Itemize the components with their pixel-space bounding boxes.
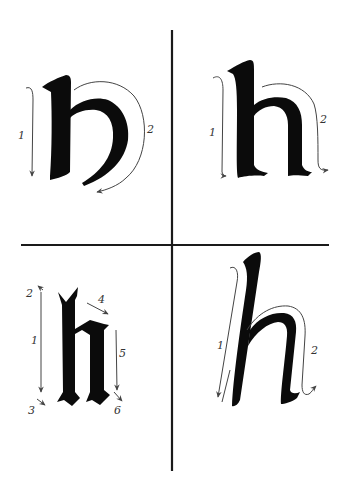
panel-bottom-left: 2 1 3 4 5 6 (25, 286, 126, 417)
stroke-label: 1 (217, 339, 224, 352)
letter-h-foundational-arch (254, 97, 312, 176)
stroke-label: 1 (18, 129, 25, 142)
letter-h-uncial-stem (42, 75, 71, 180)
panel-top-left: 1 2 (18, 75, 154, 192)
stroke-arrow-1 (26, 88, 33, 176)
calligraphy-h-stroke-diagram: 1 2 1 2 2 1 3 4 5 6 (0, 0, 347, 491)
letter-h-uncial-bowl (70, 98, 128, 186)
stroke-arrow-5 (116, 330, 117, 390)
letter-h-blackletter-stem (57, 287, 80, 406)
stroke-label: 2 (310, 344, 318, 357)
stroke-label: 4 (97, 293, 105, 306)
panel-bottom-right: 1 2 (217, 252, 318, 406)
letter-h-italic-arch (248, 313, 300, 404)
stroke-label: 1 (31, 334, 38, 347)
stroke-label: 5 (119, 347, 126, 360)
stroke-arrow-1-tail (222, 370, 230, 402)
stroke-label: 2 (146, 123, 154, 136)
panel-top-right: 1 2 (209, 60, 328, 178)
stroke-arrow-6 (114, 392, 122, 401)
stroke-arrow-2 (74, 82, 144, 192)
stroke-arrow-2 (38, 286, 43, 290)
stroke-arrow-3 (37, 399, 45, 405)
stroke-label: 6 (114, 404, 121, 417)
stroke-label: 3 (28, 404, 35, 417)
stroke-label: 2 (25, 287, 33, 300)
stroke-label: 1 (209, 126, 216, 139)
letter-h-foundational-stem (227, 60, 268, 178)
letter-h-blackletter-leg (75, 320, 110, 405)
stroke-label: 2 (319, 113, 327, 126)
